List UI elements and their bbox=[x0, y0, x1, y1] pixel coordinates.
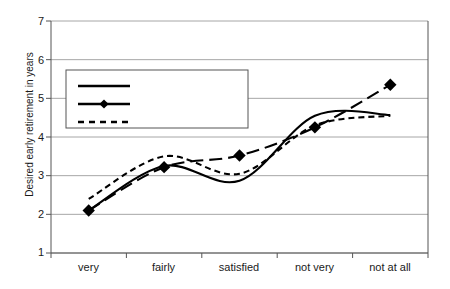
line-chart: Desired early retirement in years 7 6 5 … bbox=[0, 0, 450, 289]
y-axis-ticks bbox=[46, 21, 51, 253]
gridlines bbox=[51, 21, 428, 253]
data-point-marker bbox=[233, 149, 245, 161]
legend-box bbox=[66, 70, 248, 128]
data-point-marker bbox=[158, 161, 170, 173]
x-axis-ticks bbox=[51, 253, 428, 258]
plot-canvas bbox=[0, 0, 450, 289]
data-point-marker bbox=[384, 79, 396, 91]
